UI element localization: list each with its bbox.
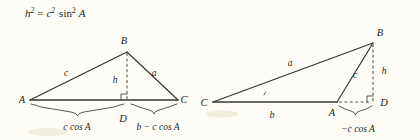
acute-side-label-a: a: [152, 68, 157, 78]
acute-side-label-c: c: [64, 68, 69, 78]
obtuse-side-cb: [213, 43, 373, 102]
formula-expression: h2=c2sin2A: [25, 6, 86, 19]
obtuse-side-label-h: h: [382, 66, 387, 76]
formula-lhs-exponent: 2: [31, 6, 35, 15]
acute-triangle-group: A B C D c a h c cos A b − c cos A: [18, 35, 189, 132]
obtuse-side-label-c: c: [353, 70, 358, 80]
formula-argument: A: [78, 7, 86, 19]
formula-equals: =: [37, 7, 43, 19]
obtuse-vertex-label-c: C: [200, 97, 208, 108]
obtuse-brace-label: −c cos A: [341, 124, 375, 134]
law-of-cosines-figure: h2=c2sin2A A B C D c a h c cos A b − c c…: [0, 0, 420, 140]
formula-sin-exponent: 2: [72, 6, 76, 15]
obtuse-vertex-label-d: D: [379, 97, 388, 108]
acute-brace-left-label: c cos A: [63, 122, 90, 132]
obtuse-right-angle-icon: [367, 96, 373, 102]
acute-brace-left: [31, 104, 124, 116]
acute-right-angle-icon: [121, 94, 127, 100]
obtuse-brace: [339, 106, 372, 115]
acute-brace-right: [131, 104, 177, 114]
obtuse-triangle-group: C B A D a b c h −c cos A: [200, 27, 388, 134]
obtuse-side-label-a: a: [288, 58, 293, 68]
acute-vertex-label-b: B: [121, 35, 128, 46]
acute-vertex-label-d: D: [118, 113, 127, 124]
acute-brace-right-label: b − c cos A: [136, 122, 179, 132]
obtuse-side-label-b: b: [270, 110, 275, 120]
formula-sin-function: sin: [59, 7, 72, 19]
obtuse-angle-tick-icon: [264, 93, 266, 96]
formula-rhs-coefficient-exponent: 2: [51, 6, 55, 15]
paper-smudge-left: [28, 128, 68, 136]
acute-vertex-label-c: C: [180, 94, 188, 105]
obtuse-vertex-label-a: A: [328, 107, 336, 118]
acute-side-label-h: h: [113, 75, 118, 85]
obtuse-vertex-label-b: B: [377, 27, 384, 38]
paper-smudge-right: [206, 111, 238, 118]
geometry-figure-panel: h2=c2sin2A A B C D c a h c cos A b − c c…: [0, 0, 420, 140]
acute-vertex-label-a: A: [18, 94, 26, 105]
